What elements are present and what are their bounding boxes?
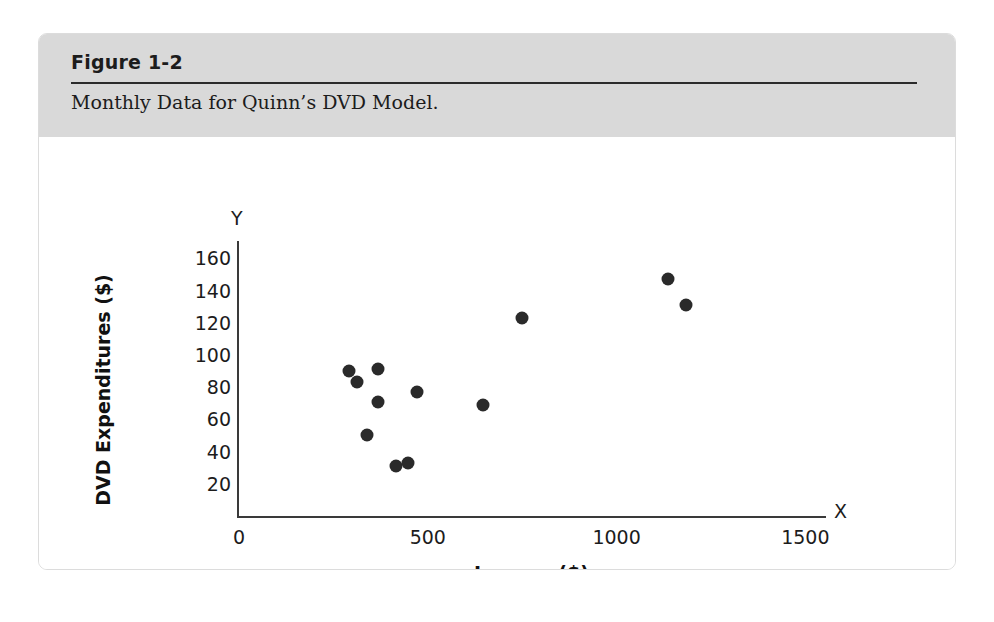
figure-caption: Monthly Data for Quinn’s DVD Model. [71, 91, 439, 113]
data-point [371, 395, 384, 408]
scatter-chart: Y X 20406080100120140160 050010001500 DV… [39, 137, 956, 570]
header-divider [71, 82, 917, 84]
x-tick-label: 1500 [781, 526, 829, 548]
data-point [680, 299, 693, 312]
x-tick-label: 0 [233, 526, 245, 548]
figure-number: Figure 1-2 [71, 51, 183, 73]
data-point [371, 363, 384, 376]
x-axis-title: Income ($) [237, 562, 826, 570]
data-point [476, 398, 489, 411]
data-point [515, 311, 528, 324]
data-point [360, 429, 373, 442]
x-tick-label: 500 [410, 526, 446, 548]
data-point [411, 385, 424, 398]
y-axis-title: DVD Expenditures ($) [92, 260, 114, 520]
figure-header: Figure 1-2 Monthly Data for Quinn’s DVD … [39, 34, 955, 137]
data-point [662, 273, 675, 286]
x-tick-label: 1000 [592, 526, 640, 548]
plot-area: Y X 20406080100120140160 050010001500 DV… [39, 137, 955, 570]
data-point [401, 456, 414, 469]
figure-card: Figure 1-2 Monthly Data for Quinn’s DVD … [38, 33, 956, 570]
data-point [350, 376, 363, 389]
x-tick-labels: 050010001500 [39, 137, 956, 570]
